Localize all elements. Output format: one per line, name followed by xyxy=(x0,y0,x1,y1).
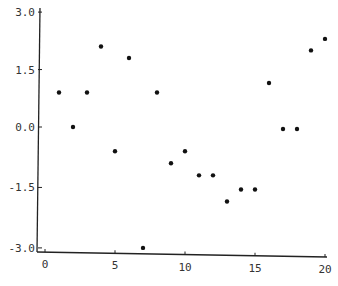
y-axis: 3.01.50.0-1.5-3.0 xyxy=(9,6,43,255)
data-point xyxy=(309,48,313,52)
data-point xyxy=(169,161,173,165)
data-point xyxy=(85,90,89,94)
data-point xyxy=(57,90,61,94)
y-tick-label: 1.5 xyxy=(15,64,35,77)
y-tick-label: -1.5 xyxy=(9,181,36,194)
data-point xyxy=(127,56,131,60)
x-tick-label: 0 xyxy=(42,258,49,271)
data-point xyxy=(183,149,187,153)
x-axis: 05101520 xyxy=(37,249,332,276)
data-point xyxy=(281,127,285,131)
x-tick-label: 15 xyxy=(248,262,261,275)
data-point xyxy=(323,37,327,41)
y-tick-label: -3.0 xyxy=(9,242,36,255)
data-point xyxy=(113,149,117,153)
x-tick-label: 10 xyxy=(178,261,191,274)
data-point xyxy=(239,187,243,191)
scatter-plot: 3.01.50.0-1.5-3.0 05101520 xyxy=(0,0,338,286)
y-tick-label: 0.0 xyxy=(15,121,35,134)
data-point xyxy=(155,90,159,94)
data-point xyxy=(99,44,103,48)
data-point xyxy=(71,125,75,129)
data-points xyxy=(57,37,327,250)
data-point xyxy=(225,199,229,203)
data-point xyxy=(295,127,299,131)
data-point xyxy=(197,173,201,177)
data-point xyxy=(141,246,145,250)
data-point xyxy=(253,187,257,191)
x-tick-label: 20 xyxy=(318,263,331,276)
data-point xyxy=(267,81,271,85)
y-tick-label: 3.0 xyxy=(15,6,35,19)
x-tick-label: 5 xyxy=(112,259,119,272)
data-point xyxy=(211,173,215,177)
